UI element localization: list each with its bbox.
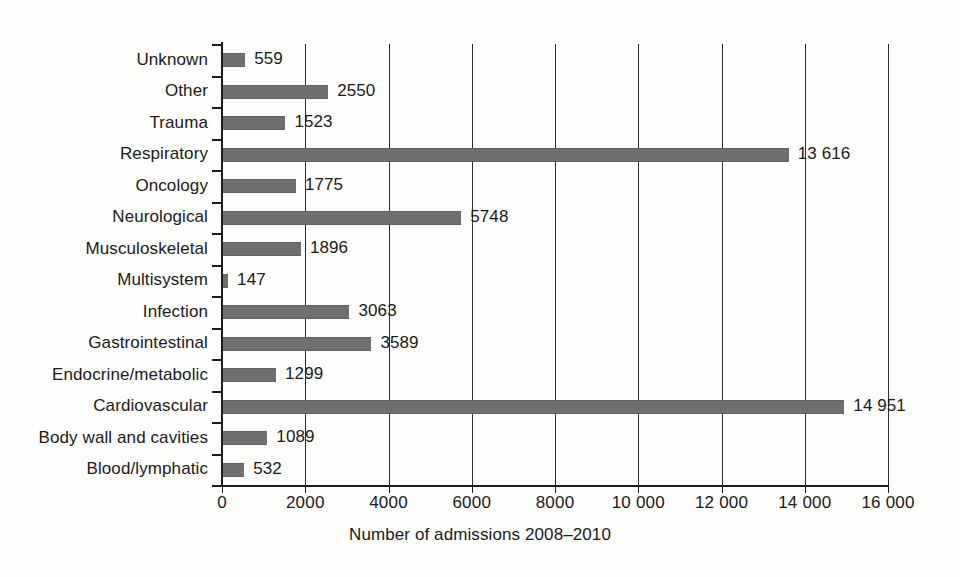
bar[interactable] bbox=[222, 305, 349, 319]
category-label: Cardiovascular bbox=[93, 395, 208, 417]
y-axis-tick bbox=[212, 328, 222, 330]
x-axis-tick-label: 8000 bbox=[536, 492, 575, 514]
x-axis-title: Number of admissions 2008–2010 bbox=[0, 524, 960, 546]
category-label: Body wall and cavities bbox=[39, 427, 208, 449]
bar[interactable] bbox=[222, 211, 461, 225]
bar-value-label: 14 951 bbox=[853, 395, 906, 417]
category-label: Trauma bbox=[149, 112, 208, 134]
bar-value-label: 1523 bbox=[294, 111, 332, 133]
x-axis-tick-label: 16 000 bbox=[861, 492, 914, 514]
x-axis-tick-label: 4000 bbox=[369, 492, 408, 514]
category-label: Endocrine/metabolic bbox=[52, 364, 208, 386]
bar-row: 532 bbox=[222, 454, 888, 486]
category-label: Neurological bbox=[112, 206, 208, 228]
category-label: Respiratory bbox=[120, 143, 208, 165]
x-axis-tick-label: 0 bbox=[217, 492, 227, 514]
y-axis-tick bbox=[212, 422, 222, 424]
y-axis-tick bbox=[212, 76, 222, 78]
bar[interactable] bbox=[222, 116, 285, 130]
category-label: Oncology bbox=[135, 175, 208, 197]
bar-row: 559 bbox=[222, 44, 888, 76]
plot-area: 5592550152313 61617755748189614730633589… bbox=[222, 44, 888, 485]
y-axis-tick bbox=[212, 44, 222, 46]
y-axis-tick bbox=[212, 391, 222, 393]
bar-row: 3063 bbox=[222, 296, 888, 328]
x-axis-tick-label: 12 000 bbox=[695, 492, 748, 514]
x-axis-tick-label: 2000 bbox=[286, 492, 325, 514]
category-label: Multisystem bbox=[117, 269, 208, 291]
bar-row: 1775 bbox=[222, 170, 888, 202]
bar-row: 3589 bbox=[222, 328, 888, 360]
bar-row: 1896 bbox=[222, 233, 888, 265]
bar-value-label: 13 616 bbox=[798, 143, 851, 165]
category-label: Unknown bbox=[136, 49, 208, 71]
bar[interactable] bbox=[222, 148, 789, 162]
bar-value-label: 3063 bbox=[358, 300, 396, 322]
x-axis-tick-label: 6000 bbox=[452, 492, 491, 514]
bar-row: 2550 bbox=[222, 76, 888, 108]
category-label: Other bbox=[165, 80, 208, 102]
y-axis-tick bbox=[212, 202, 222, 204]
bar-chart-figure: 5592550152313 61617755748189614730633589… bbox=[0, 0, 960, 577]
x-axis-tick-label: 14 000 bbox=[778, 492, 831, 514]
bar[interactable] bbox=[222, 400, 844, 414]
bar[interactable] bbox=[222, 337, 371, 351]
y-axis-tick bbox=[212, 296, 222, 298]
bar-value-label: 1089 bbox=[276, 426, 314, 448]
bar[interactable] bbox=[222, 53, 245, 67]
bar-row: 13 616 bbox=[222, 139, 888, 171]
y-axis-tick bbox=[212, 265, 222, 267]
bar-value-label: 1299 bbox=[285, 363, 323, 385]
bar-row: 14 951 bbox=[222, 391, 888, 423]
x-axis-tick-label: 10 000 bbox=[612, 492, 665, 514]
bar-value-label: 2550 bbox=[337, 80, 375, 102]
bar-value-label: 1775 bbox=[305, 174, 343, 196]
bar-row: 5748 bbox=[222, 202, 888, 234]
y-axis-tick bbox=[212, 170, 222, 172]
bar[interactable] bbox=[222, 431, 267, 445]
category-label: Musculoskeletal bbox=[86, 238, 208, 260]
bar-value-label: 559 bbox=[254, 48, 283, 70]
y-axis-tick bbox=[212, 233, 222, 235]
category-label: Blood/lymphatic bbox=[86, 458, 208, 480]
y-axis-tick bbox=[212, 359, 222, 361]
category-label: Infection bbox=[143, 301, 208, 323]
bar-value-label: 3589 bbox=[380, 332, 418, 354]
y-axis-tick bbox=[212, 454, 222, 456]
bar-value-label: 1896 bbox=[310, 237, 348, 259]
bar-row: 1299 bbox=[222, 359, 888, 391]
y-axis-tick bbox=[212, 485, 222, 487]
bar-value-label: 147 bbox=[237, 269, 266, 291]
bar-value-label: 532 bbox=[253, 458, 282, 480]
bar-row: 147 bbox=[222, 265, 888, 297]
y-axis-tick bbox=[212, 139, 222, 141]
bar[interactable] bbox=[222, 368, 276, 382]
bar[interactable] bbox=[222, 463, 244, 477]
y-axis-tick bbox=[212, 107, 222, 109]
bar-value-label: 5748 bbox=[470, 206, 508, 228]
bar-row: 1089 bbox=[222, 422, 888, 454]
bar-row: 1523 bbox=[222, 107, 888, 139]
bar[interactable] bbox=[222, 85, 328, 99]
category-label: Gastrointestinal bbox=[88, 332, 208, 354]
bar[interactable] bbox=[222, 242, 301, 256]
gridline bbox=[888, 44, 889, 485]
bar[interactable] bbox=[222, 179, 296, 193]
